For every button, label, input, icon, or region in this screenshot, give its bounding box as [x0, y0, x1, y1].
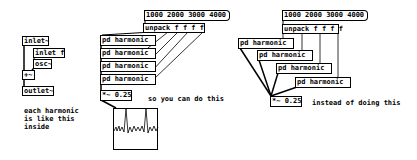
right-comment: instead of doing this: [312, 99, 401, 107]
frequency-message-box[interactable]: 1000 2000 3000 4000: [144, 10, 226, 21]
unpack-object[interactable]: unpack f f f f: [282, 24, 339, 34]
unpack-object[interactable]: unpack f f f f: [143, 23, 205, 33]
outlet-signal-object[interactable]: outlet~: [22, 86, 54, 96]
add-signal-object[interactable]: +~: [22, 70, 35, 80]
pd-harmonic-object[interactable]: pd harmonic: [100, 35, 156, 46]
osc-object[interactable]: osc~: [33, 59, 52, 69]
patch-cords: [0, 0, 417, 160]
left-comment: each harmonic is like this inside: [24, 107, 79, 131]
frequency-message-box[interactable]: 1000 2000 3000 4000: [282, 10, 364, 21]
pd-patch-canvas: inlet~ inlet f osc~ +~ outlet~ each harm…: [0, 0, 417, 160]
multiply-signal-object[interactable]: *~ 0.25: [100, 90, 132, 101]
inlet-float-object[interactable]: inlet f: [33, 48, 65, 58]
pd-harmonic-object[interactable]: pd harmonic: [257, 50, 313, 61]
pd-harmonic-object[interactable]: pd harmonic: [295, 77, 351, 88]
pd-harmonic-object[interactable]: pd harmonic: [276, 63, 332, 74]
middle-comment: so you can do this: [148, 95, 224, 103]
pd-harmonic-object[interactable]: pd harmonic: [100, 48, 156, 59]
multiply-signal-object[interactable]: *~ 0.25: [270, 96, 302, 107]
pd-harmonic-object[interactable]: pd harmonic: [238, 38, 294, 49]
pd-harmonic-object[interactable]: pd harmonic: [100, 74, 156, 85]
waveform-array-graph[interactable]: [113, 108, 158, 150]
pd-harmonic-object[interactable]: pd harmonic: [100, 61, 156, 72]
waveform-plot: [114, 109, 159, 151]
inlet-signal-object[interactable]: inlet~: [22, 36, 49, 46]
